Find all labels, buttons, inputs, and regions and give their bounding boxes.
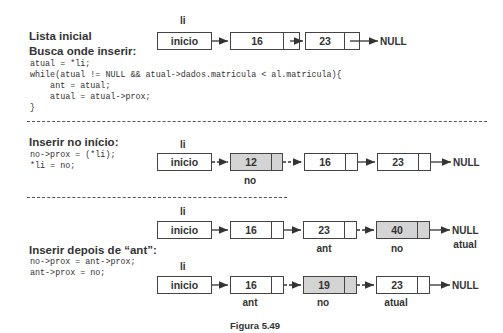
arrows	[0, 0, 503, 333]
